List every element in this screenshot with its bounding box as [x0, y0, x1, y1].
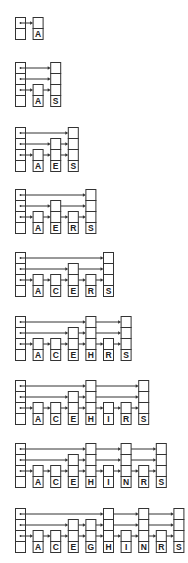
node-H: H [86, 317, 96, 361]
node-S: S [104, 253, 114, 297]
node-key-label: A [35, 96, 41, 106]
node-key-label: S [106, 286, 112, 296]
node-N: N [121, 444, 131, 488]
node-A: A [33, 150, 43, 172]
node-A: A [33, 275, 43, 297]
node-key-label: H [88, 414, 94, 424]
node-H: H [86, 381, 96, 425]
node-key-label: S [176, 542, 182, 552]
node-R: R [121, 403, 131, 425]
node-key-label: A [35, 477, 41, 487]
node-key-label: H [88, 350, 94, 360]
node-key-label: E [70, 477, 76, 487]
node-key-label: H [105, 542, 111, 552]
skip-list-step-8: ACEHINRS [16, 444, 167, 488]
node-S: S [86, 190, 96, 234]
skip-list-diagram: AASAESAERSACERSACEHRSACEHIRSACEHINRSACEG… [0, 0, 188, 563]
node-E: E [68, 520, 78, 553]
skip-list-step-9: ACEGHINRS [16, 509, 184, 553]
node-N: N [139, 509, 149, 553]
skip-list-step-7: ACEHIRS [16, 381, 149, 425]
node-key-label: S [70, 161, 76, 171]
node-key-label: A [35, 350, 41, 360]
node-E: E [68, 264, 78, 297]
node-S: S [174, 509, 184, 553]
node-key-label: S [141, 414, 147, 424]
node-R: R [139, 466, 149, 488]
node-key-label: E [70, 542, 76, 552]
node-R: R [104, 339, 114, 361]
node-E: E [68, 392, 78, 425]
node-key-label: S [53, 96, 59, 106]
node-key-label: R [88, 286, 94, 296]
node-I: I [104, 403, 114, 425]
node-C: C [51, 531, 61, 553]
node-R: R [156, 531, 166, 553]
skip-list-step-4: AERS [16, 190, 96, 234]
node-S: S [51, 63, 61, 107]
node-H: H [104, 509, 114, 553]
skip-list-step-3: AES [16, 128, 79, 172]
node-A: A [33, 18, 43, 40]
node-key-label: I [125, 542, 127, 552]
node-key-label: C [53, 414, 59, 424]
node-C: C [51, 339, 61, 361]
node-R: R [68, 212, 78, 234]
node-I: I [104, 466, 114, 488]
node-key-label: A [35, 286, 41, 296]
node-key-label: R [141, 477, 147, 487]
node-key-label: C [53, 542, 59, 552]
node-key-label: A [35, 29, 41, 39]
node-S: S [68, 128, 78, 172]
node-key-label: C [53, 477, 59, 487]
node-E: E [68, 455, 78, 488]
node-key-label: E [53, 223, 59, 233]
node-key-label: R [158, 542, 164, 552]
node-key-label: H [88, 477, 94, 487]
node-key-label: G [88, 542, 95, 552]
node-key-label: R [105, 350, 111, 360]
node-key-label: A [35, 542, 41, 552]
node-key-label: N [141, 542, 147, 552]
node-E: E [51, 139, 61, 172]
node-A: A [33, 85, 43, 107]
node-key-label: A [35, 161, 41, 171]
node-G: G [86, 520, 96, 553]
node-key-label: S [88, 223, 94, 233]
node-key-label: E [53, 161, 59, 171]
node-key-label: R [123, 414, 129, 424]
skip-list-step-1: A [16, 18, 44, 40]
node-S: S [121, 317, 131, 361]
node-A: A [33, 339, 43, 361]
node-key-label: E [70, 414, 76, 424]
node-key-label: R [70, 223, 76, 233]
node-E: E [68, 328, 78, 361]
node-key-label: A [35, 414, 41, 424]
node-H: H [86, 444, 96, 488]
node-key-label: C [53, 350, 59, 360]
skip-list-step-6: ACEHRS [16, 317, 132, 361]
skip-list-step-5: ACERS [16, 253, 114, 297]
node-A: A [33, 403, 43, 425]
node-I: I [121, 531, 131, 553]
node-key-label: I [107, 414, 109, 424]
node-E: E [51, 201, 61, 234]
node-C: C [51, 403, 61, 425]
node-key-label: S [158, 477, 164, 487]
node-C: C [51, 466, 61, 488]
node-key-label: I [107, 477, 109, 487]
node-C: C [51, 275, 61, 297]
node-R: R [86, 275, 96, 297]
node-S: S [139, 381, 149, 425]
skip-list-step-2: AS [16, 63, 61, 107]
node-A: A [33, 466, 43, 488]
node-A: A [33, 212, 43, 234]
node-key-label: E [70, 350, 76, 360]
node-key-label: E [70, 286, 76, 296]
node-key-label: C [53, 286, 59, 296]
node-key-label: S [123, 350, 129, 360]
node-S: S [156, 444, 166, 488]
node-key-label: N [123, 477, 129, 487]
node-key-label: A [35, 223, 41, 233]
node-A: A [33, 531, 43, 553]
